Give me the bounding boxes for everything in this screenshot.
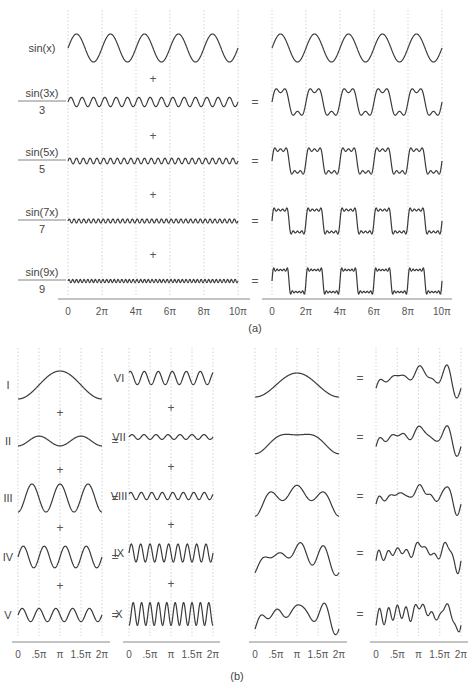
term-label-numerator: sin(5x) (25, 146, 58, 158)
x-tick-label: 0 (15, 649, 21, 660)
term-label-denominator: 3 (39, 104, 45, 116)
x-tick-label: π (294, 649, 301, 660)
x-tick-label: 0 (126, 649, 132, 660)
x-tick-label: 4π (334, 306, 347, 317)
equals-sign: = (356, 546, 363, 560)
x-tick-label: 2π (207, 649, 220, 660)
x-tick-label: .5π (390, 649, 405, 660)
partial-sum-curve (376, 426, 461, 456)
x-tick-label: 0 (373, 649, 379, 660)
component-curve (129, 371, 213, 384)
plus-sign: + (167, 577, 174, 591)
term-label-numerator: sin(9x) (25, 266, 58, 278)
plus-sign: + (56, 406, 63, 420)
plus-sign: + (167, 401, 174, 415)
x-tick-label: 1.5π (182, 649, 203, 660)
term-curve (68, 34, 238, 62)
plus-sign: + (56, 521, 63, 535)
partial-sum-curve (255, 485, 339, 516)
x-tick-label: 6π (164, 306, 177, 317)
plus-sign: + (167, 460, 174, 474)
component-label: VII (112, 431, 125, 443)
term-label-numerator: sin(3x) (25, 87, 58, 99)
term-curve (68, 158, 238, 164)
plus-sign: + (149, 248, 156, 262)
x-tick-label: 2π (333, 649, 346, 660)
plus-sign: + (149, 72, 156, 86)
x-tick-label: 2π (300, 306, 313, 317)
partial-sum-curve (272, 208, 442, 234)
x-tick-label: 0 (65, 306, 71, 317)
x-tick-label: 0 (252, 649, 258, 660)
partial-sum-curve (272, 148, 442, 174)
term-curve (68, 279, 238, 282)
x-tick-label: 8π (198, 306, 211, 317)
x-tick-label: 0 (269, 306, 275, 317)
equals-sign: = (251, 95, 258, 109)
x-tick-label: 10π (433, 306, 451, 317)
component-label: X (115, 608, 123, 620)
term-label-numerator: sin(7x) (25, 206, 58, 218)
component-label: I (6, 379, 9, 391)
partial-sum-curve (272, 268, 442, 294)
component-curve (18, 436, 102, 446)
partial-sum-curve (272, 34, 442, 62)
component-curve (18, 608, 102, 621)
plus-sign: + (149, 188, 156, 202)
x-tick-label: π (168, 649, 175, 660)
fourier-figure: 02π4π6π8π10π02π4π6π8π10π(a)sin(x)+sin(3x… (0, 0, 475, 690)
x-tick-label: 1.5π (308, 649, 329, 660)
component-curve (129, 435, 213, 440)
x-tick-label: .5π (31, 649, 46, 660)
component-label: III (3, 492, 12, 504)
component-label: VIII (111, 490, 128, 502)
equals-sign: = (251, 214, 258, 228)
x-tick-label: .5π (268, 649, 283, 660)
component-curve (18, 546, 102, 568)
x-tick-label: 1.5π (71, 649, 92, 660)
component-label: IV (3, 551, 14, 563)
x-tick-label: 2π (96, 306, 109, 317)
component-label: II (5, 435, 11, 447)
component-label: IX (114, 547, 125, 559)
equals-sign: = (251, 274, 258, 288)
component-label: V (4, 609, 12, 621)
x-tick-label: 10π (229, 306, 247, 317)
plus-sign: + (56, 579, 63, 593)
x-tick-label: 4π (130, 306, 143, 317)
panel-a-caption: (a) (248, 322, 261, 334)
plus-sign: + (167, 518, 174, 532)
term-label-denominator: 7 (39, 223, 45, 235)
term-curve (68, 219, 238, 223)
x-tick-label: 6π (368, 306, 381, 317)
x-tick-label: 2π (96, 649, 109, 660)
equals-sign: = (356, 430, 363, 444)
x-tick-label: π (57, 649, 64, 660)
term-label-denominator: 5 (39, 163, 45, 175)
x-tick-label: 8π (402, 306, 415, 317)
term-curve (68, 97, 238, 106)
plus-sign: + (149, 129, 156, 143)
plus-sign: + (56, 463, 63, 477)
x-tick-label: π (415, 649, 422, 660)
x-tick-label: 2π (455, 649, 468, 660)
equals-sign: = (356, 371, 363, 385)
partial-sum-curve (272, 89, 442, 115)
component-label: VI (114, 372, 124, 384)
term-label: sin(x) (29, 42, 56, 54)
term-label-denominator: 9 (39, 283, 45, 295)
equals-sign: = (356, 489, 363, 503)
x-tick-label: .5π (142, 649, 157, 660)
equals-sign: = (356, 607, 363, 621)
equals-sign: = (251, 154, 258, 168)
x-tick-label: 1.5π (429, 649, 450, 660)
panel-b-caption: (b) (230, 670, 243, 682)
